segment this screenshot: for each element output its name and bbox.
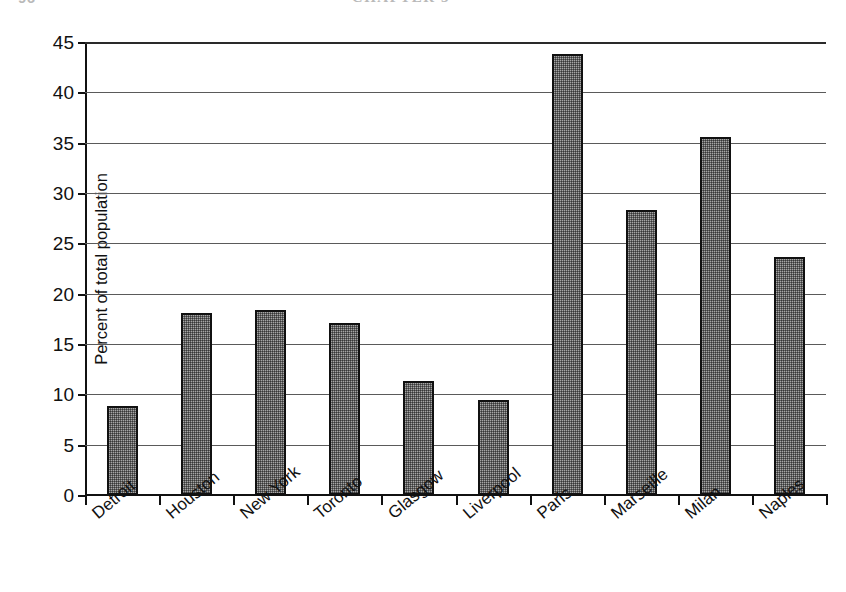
- y-tick-mark: [78, 243, 85, 245]
- plot-area: 051015202530354045: [85, 42, 826, 495]
- bar-houston: [181, 313, 212, 495]
- x-tick-mark: [85, 496, 87, 505]
- gridline: [85, 92, 826, 93]
- y-tick-mark: [78, 143, 85, 145]
- bar-new-york: [255, 310, 286, 495]
- y-tick-mark: [78, 92, 85, 94]
- bar-marseille: [626, 210, 657, 495]
- x-tick-mark: [307, 496, 309, 505]
- bar-toronto: [329, 323, 360, 495]
- x-tick-mark: [530, 496, 532, 505]
- bar-milan: [700, 137, 731, 495]
- y-tick-mark: [78, 445, 85, 447]
- x-tick-mark: [604, 496, 606, 505]
- gridline: [85, 42, 826, 44]
- y-tick-mark: [78, 495, 85, 497]
- y-tick-label: 20: [53, 284, 74, 303]
- x-tick-mark: [381, 496, 383, 505]
- y-tick-mark: [78, 42, 85, 44]
- y-tick-label: 35: [53, 133, 74, 152]
- y-tick-label: 25: [53, 234, 74, 253]
- bar-paris: [552, 54, 583, 495]
- y-tick-label: 5: [63, 435, 74, 454]
- y-tick-label: 0: [63, 486, 74, 505]
- x-tick-mark: [752, 496, 754, 505]
- y-tick-label: 45: [53, 33, 74, 52]
- bar-chart: Percent of total population 051015202530…: [0, 0, 846, 592]
- y-tick-label: 40: [53, 83, 74, 102]
- y-tick-mark: [78, 394, 85, 396]
- y-tick-mark: [78, 344, 85, 346]
- x-tick-mark: [456, 496, 458, 505]
- x-tick-mark: [826, 496, 828, 505]
- y-tick-label: 10: [53, 385, 74, 404]
- y-tick-mark: [78, 193, 85, 195]
- y-tick-mark: [78, 294, 85, 296]
- y-tick-label: 30: [53, 184, 74, 203]
- bar-naples: [774, 257, 805, 495]
- x-tick-mark: [233, 496, 235, 505]
- x-tick-mark: [678, 496, 680, 505]
- y-tick-label: 15: [53, 335, 74, 354]
- x-tick-mark: [159, 496, 161, 505]
